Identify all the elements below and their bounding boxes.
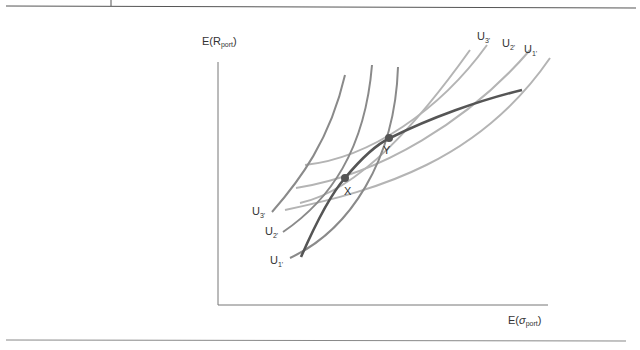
flat-label-u1: U1' (524, 43, 537, 57)
figure-frame: E(Rport) E(σport) X Y U3' U2' U1' U3' U2… (0, 0, 640, 350)
point-x-marker (341, 174, 349, 182)
steep-label-u2: U2' (265, 225, 278, 239)
point-x-label: X (344, 185, 352, 197)
y-axis-label: E(Rport) (202, 35, 237, 49)
flat-label-u2: U2' (502, 37, 515, 51)
efficient-frontier (301, 90, 522, 257)
x-axis-label: E(σport) (508, 314, 541, 328)
flat-label-u3: U3' (477, 30, 490, 44)
indifference-curve-diagram: E(Rport) E(σport) X Y U3' U2' U1' U3' U2… (0, 0, 640, 350)
steep-label-u1: U1' (270, 254, 283, 268)
point-y-label: Y (383, 144, 391, 156)
top-rule (6, 6, 636, 8)
bottom-rule (6, 340, 626, 341)
steep-label-u3: U3' (252, 205, 265, 219)
point-y-marker (385, 134, 393, 142)
